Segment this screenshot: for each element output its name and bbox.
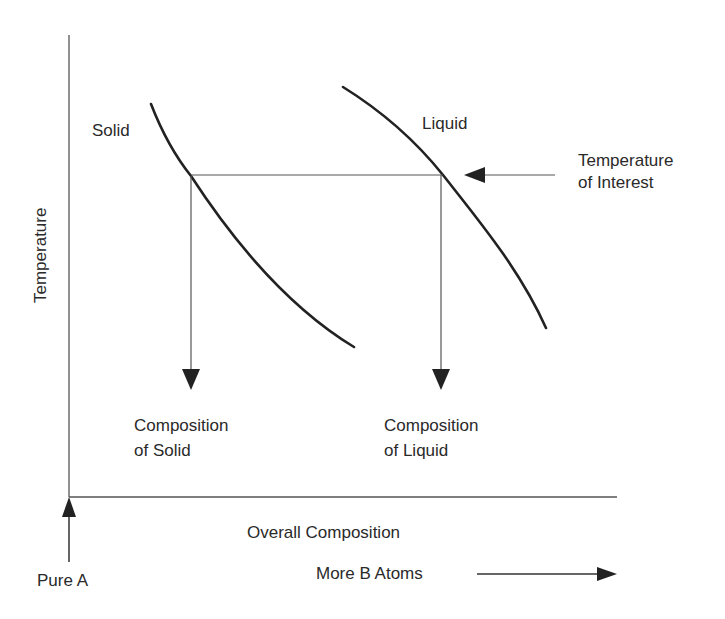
liquid-region-label: Liquid: [422, 113, 467, 135]
composition-of-liquid-line-2: of Liquid: [384, 440, 479, 462]
composition-of-solid-line-1: Composition: [134, 415, 229, 437]
composition-of-solid-label: Composition of Solid: [134, 415, 229, 462]
solid-composition-arrow-icon: [182, 369, 200, 390]
more-b-atoms-label: More B Atoms: [316, 563, 423, 585]
temperature-of-interest-line-1: Temperature: [578, 150, 673, 172]
temperature-of-interest-line-2: of Interest: [578, 172, 673, 194]
composition-of-solid-line-2: of Solid: [134, 440, 229, 462]
solidus-curve: [151, 104, 354, 347]
x-axis-label: Overall Composition: [247, 522, 400, 544]
composition-of-liquid-label: Composition of Liquid: [384, 415, 479, 462]
pure-a-arrow-icon: [62, 497, 76, 517]
more-b-arrow-icon: [597, 567, 617, 581]
temperature-of-interest-arrow-icon: [464, 167, 485, 183]
pure-a-label: Pure A: [37, 570, 88, 592]
solid-region-label: Solid: [92, 120, 130, 142]
y-axis-label: Temperature: [31, 208, 51, 303]
liquid-composition-arrow-icon: [432, 369, 450, 390]
composition-of-liquid-line-1: Composition: [384, 415, 479, 437]
temperature-of-interest-label: Temperature of Interest: [578, 150, 673, 194]
